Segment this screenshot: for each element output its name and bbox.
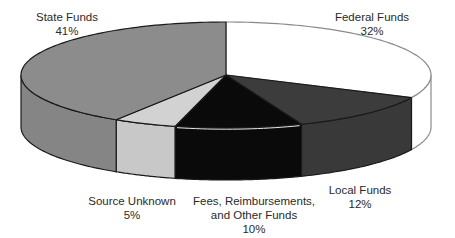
label-source-unknown: Source Unknown 5% (88, 194, 176, 222)
side-wall-source-unknown (116, 120, 175, 179)
label-state-funds: State Funds 41% (36, 10, 98, 38)
label-federal-name: Federal Funds (335, 10, 409, 24)
label-fees-name-1: Fees, Reimbursements, (193, 194, 315, 208)
label-fees-funds: Fees, Reimbursements, and Other Funds 10… (193, 194, 315, 236)
label-local-funds: Local Funds 12% (329, 183, 392, 211)
label-fees-name-2: and Other Funds (193, 208, 315, 222)
label-local-name: Local Funds (329, 183, 392, 197)
label-local-pct: 12% (329, 197, 392, 211)
label-state-name: State Funds (36, 10, 98, 24)
label-state-pct: 41% (36, 24, 98, 38)
label-unknown-name: Source Unknown (88, 194, 176, 208)
label-federal-pct: 32% (335, 24, 409, 38)
label-unknown-pct: 5% (88, 208, 176, 222)
label-federal-funds: Federal Funds 32% (335, 10, 409, 38)
side-wall-fees-reimbursements-and-other-funds (175, 124, 301, 180)
pie-top-slices (21, 22, 431, 129)
label-fees-pct: 10% (193, 222, 315, 236)
